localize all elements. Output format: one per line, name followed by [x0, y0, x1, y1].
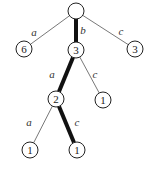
edge-label: b	[80, 24, 86, 36]
node-count: 6	[21, 43, 27, 55]
edge-label: a	[26, 116, 32, 128]
edge-label: c	[93, 68, 98, 80]
edge-label: c	[119, 25, 124, 37]
edge-n_ba-n_baa	[34, 106, 53, 143]
node-count: 1	[74, 144, 80, 156]
node-count: 1	[100, 94, 106, 106]
trie-diagram: abcacac 6332111	[0, 0, 156, 172]
edge-label: a	[31, 26, 37, 38]
node-root	[68, 3, 84, 19]
node-count: 2	[53, 93, 59, 105]
node-count: 3	[132, 43, 138, 55]
edges: abcacac	[26, 15, 128, 143]
node-count: 3	[73, 44, 79, 56]
edge-n_ba-n_bac	[59, 106, 74, 142]
edge-label: a	[49, 68, 55, 80]
node-count: 1	[27, 144, 33, 156]
edge-n_b-n_ba	[59, 57, 73, 91]
edge-label: c	[75, 116, 80, 128]
